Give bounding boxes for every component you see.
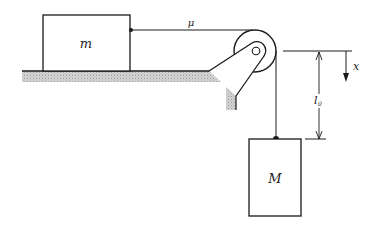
l0-subscript: 0 (318, 100, 322, 107)
arrow-down-icon (343, 73, 349, 82)
displacement-x: x (283, 51, 360, 82)
x-label: x (353, 60, 360, 73)
block-m-label: m (80, 36, 92, 51)
block-M-label: M (267, 171, 282, 186)
table (22, 71, 236, 110)
physics-diagram: m μ M x l 0 (0, 0, 374, 226)
mu-label: μ (188, 17, 195, 28)
pulley-axle (252, 47, 260, 55)
dimension-l0: l 0 (305, 52, 326, 139)
pulley (209, 30, 276, 96)
block-m: m (43, 15, 133, 71)
block-M: M (249, 136, 301, 216)
